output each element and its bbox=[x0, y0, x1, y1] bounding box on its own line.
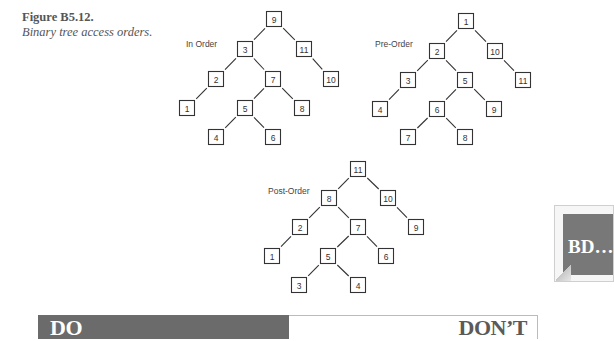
tree-edge bbox=[254, 28, 265, 39]
tree-edge bbox=[446, 118, 456, 128]
tree-edge bbox=[283, 28, 295, 40]
page-curl-icon bbox=[555, 265, 571, 281]
tree-node: 10 bbox=[381, 191, 396, 206]
tree-node: 11 bbox=[351, 162, 366, 177]
bd-badge: BD… bbox=[554, 205, 614, 282]
node-value: 8 bbox=[463, 133, 468, 143]
tree-edge bbox=[225, 58, 236, 69]
in-order-label: In Order bbox=[186, 39, 217, 49]
tree-node: 9 bbox=[409, 220, 424, 235]
banner-dont-label: DON’T bbox=[459, 315, 527, 341]
pre-order-tree: Pre-Order1210351146978 bbox=[373, 14, 531, 145]
tree-node: 1 bbox=[265, 249, 280, 264]
node-value: 5 bbox=[243, 104, 248, 114]
tree-edge bbox=[504, 60, 514, 70]
tree-edge bbox=[367, 178, 378, 189]
tree-edge bbox=[338, 207, 349, 218]
tree-edge bbox=[446, 60, 456, 70]
tree-node: 7 bbox=[351, 220, 366, 235]
node-value: 10 bbox=[490, 47, 500, 57]
tree-edge bbox=[446, 89, 456, 99]
node-value: 11 bbox=[519, 76, 528, 86]
tree-edge bbox=[308, 265, 319, 276]
tree-edge bbox=[337, 236, 348, 247]
node-value: 11 bbox=[354, 165, 363, 175]
node-value: 6 bbox=[435, 105, 440, 115]
tree-node: 3 bbox=[292, 278, 307, 293]
tree-node: 7 bbox=[266, 72, 281, 87]
tree-edge bbox=[397, 207, 407, 217]
badge-text: BD… bbox=[568, 236, 613, 258]
node-value: 6 bbox=[271, 133, 276, 143]
tree-node: 1 bbox=[180, 101, 195, 116]
node-value: 1 bbox=[185, 104, 190, 114]
tree-edge bbox=[313, 59, 323, 70]
tree-edge bbox=[338, 178, 349, 189]
tree-edge bbox=[309, 207, 320, 218]
node-value: 9 bbox=[492, 105, 497, 115]
tree-node: 4 bbox=[209, 130, 224, 145]
tree-edge bbox=[196, 88, 207, 99]
tree-edge bbox=[254, 117, 264, 127]
do-dont-banner: DO DON’T bbox=[38, 315, 538, 335]
node-value: 7 bbox=[406, 133, 411, 143]
tree-edge bbox=[389, 89, 399, 99]
tree-node: 10 bbox=[488, 44, 503, 59]
tree-node: 5 bbox=[458, 73, 473, 88]
tree-node: 5 bbox=[238, 101, 253, 116]
node-value: 10 bbox=[326, 75, 336, 85]
tree-node: 9 bbox=[267, 12, 282, 27]
node-value: 7 bbox=[356, 223, 361, 233]
tree-node: 11 bbox=[516, 73, 531, 88]
node-value: 1 bbox=[464, 17, 469, 27]
node-value: 4 bbox=[214, 133, 219, 143]
tree-node: 6 bbox=[379, 249, 394, 264]
tree-edge bbox=[225, 117, 236, 128]
tree-edge bbox=[446, 30, 457, 41]
node-value: 2 bbox=[298, 223, 303, 233]
node-value: 1 bbox=[270, 252, 275, 262]
node-value: 5 bbox=[326, 252, 331, 262]
node-value: 10 bbox=[383, 194, 393, 204]
tree-node: 2 bbox=[209, 72, 224, 87]
node-value: 2 bbox=[214, 75, 219, 85]
node-value: 9 bbox=[414, 223, 419, 233]
tree-node: 3 bbox=[238, 42, 253, 57]
node-value: 11 bbox=[300, 45, 309, 55]
tree-edge bbox=[282, 88, 293, 99]
tree-node: 4 bbox=[373, 102, 388, 117]
node-value: 8 bbox=[300, 104, 305, 114]
tree-node: 9 bbox=[487, 102, 502, 117]
post-order-label: Post-Order bbox=[268, 186, 310, 196]
pre-order-label: Pre-Order bbox=[375, 39, 413, 49]
tree-edge bbox=[475, 30, 486, 41]
tree-edge bbox=[281, 236, 291, 246]
tree-node: 3 bbox=[401, 73, 416, 88]
node-value: 7 bbox=[271, 75, 276, 85]
node-value: 3 bbox=[243, 45, 248, 55]
node-value: 9 bbox=[272, 15, 277, 25]
tree-edge bbox=[254, 88, 264, 98]
banner-do: DO bbox=[38, 315, 289, 339]
tree-node: 1 bbox=[459, 14, 474, 29]
in-order-tree: In Order9311271015846 bbox=[180, 12, 339, 145]
node-value: 8 bbox=[327, 194, 332, 204]
banner-do-label: DO bbox=[50, 315, 82, 341]
tree-node: 8 bbox=[458, 130, 473, 145]
tree-node: 8 bbox=[322, 191, 337, 206]
node-value: 4 bbox=[378, 105, 383, 115]
tree-edge bbox=[337, 265, 348, 276]
tree-node: 7 bbox=[401, 130, 416, 145]
tree-node: 4 bbox=[351, 278, 366, 293]
node-value: 3 bbox=[406, 76, 411, 86]
tree-node: 2 bbox=[293, 220, 308, 235]
post-order-tree: Post-Order1181027915634 bbox=[265, 162, 424, 293]
tree-node: 2 bbox=[430, 44, 445, 59]
tree-node: 6 bbox=[266, 130, 281, 145]
node-value: 6 bbox=[384, 252, 389, 262]
tree-edge bbox=[417, 60, 428, 71]
tree-node: 10 bbox=[324, 72, 339, 87]
node-value: 4 bbox=[356, 281, 361, 291]
tree-node: 8 bbox=[295, 101, 310, 116]
